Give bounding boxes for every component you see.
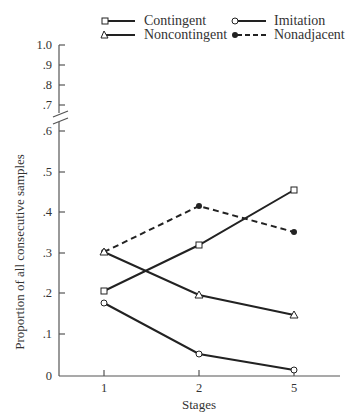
y-tick-labels: 1.0 .9 .8 .7 .6 .5 .4 .3 .2 .1 0: [36, 38, 52, 383]
open-square-icon: [102, 18, 108, 24]
y-tick-label: .8: [43, 78, 52, 92]
x-tick-label: 5: [291, 381, 297, 395]
y-tick-label: .6: [43, 124, 52, 138]
y-tick-label: .3: [43, 246, 52, 260]
legend: Contingent Imitation Noncontingent Nonad…: [101, 13, 345, 42]
y-tick-label: 0: [46, 369, 52, 383]
x-tick-label: 2: [196, 381, 202, 395]
y-axis: [53, 45, 68, 376]
open-circle-icon: [232, 18, 238, 24]
legend-item-imitation: Imitation: [232, 13, 325, 28]
x-tick-labels: 1 2 5: [101, 381, 297, 395]
y-axis-title: Proportion of all consecutive samples: [12, 154, 27, 350]
x-axis-title: Stages: [182, 397, 216, 412]
y-tick-label: .4: [43, 205, 53, 219]
y-tick-label: .7: [43, 98, 52, 112]
series-noncontingent: [100, 248, 298, 318]
legend-label-imitation: Imitation: [274, 13, 325, 28]
x-axis: [59, 370, 340, 376]
axis-break-mark: [53, 118, 68, 124]
axis-break-mark: [53, 111, 68, 117]
y-tick-label: 1.0: [36, 38, 52, 52]
legend-label-noncontingent: Noncontingent: [144, 27, 227, 42]
legend-label-nonadjacent: Nonadjacent: [274, 27, 345, 42]
series-imitation: [101, 300, 297, 373]
filled-circle-icon: [232, 32, 238, 38]
legend-item-noncontingent: Noncontingent: [101, 27, 227, 42]
legend-item-nonadjacent: Nonadjacent: [232, 27, 345, 42]
y-tick-label: .2: [43, 286, 52, 300]
y-tick-label: .1: [43, 327, 52, 341]
legend-label-contingent: Contingent: [144, 13, 206, 28]
y-tick-label: .9: [43, 58, 52, 72]
line-chart: Contingent Imitation Noncontingent Nonad…: [0, 0, 354, 420]
x-tick-label: 1: [101, 381, 107, 395]
legend-item-contingent: Contingent: [102, 13, 206, 28]
y-tick-label: .5: [43, 165, 52, 179]
